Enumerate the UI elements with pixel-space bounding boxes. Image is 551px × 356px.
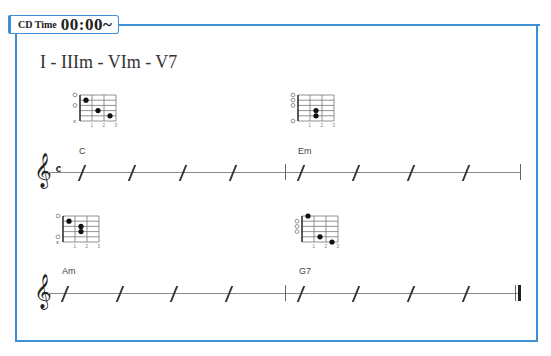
svg-text:x: x bbox=[56, 239, 59, 245]
treble-clef-icon: 𝄞 bbox=[34, 276, 52, 306]
svg-text:3: 3 bbox=[333, 123, 336, 128]
svg-text:x: x bbox=[73, 118, 76, 124]
chord-name-g7: G7 bbox=[299, 266, 311, 276]
svg-text:3: 3 bbox=[115, 123, 118, 128]
final-barline-thick bbox=[518, 285, 521, 301]
barline bbox=[285, 285, 286, 301]
svg-text:2: 2 bbox=[325, 244, 328, 249]
chord-name-c: C bbox=[79, 146, 86, 156]
treble-clef-icon: 𝄞 bbox=[34, 155, 52, 185]
svg-text:3: 3 bbox=[337, 244, 340, 249]
final-barline-thin bbox=[515, 285, 516, 301]
chord-diagram-am: x123 bbox=[53, 213, 105, 251]
cd-time-caption: CD Time bbox=[18, 19, 57, 30]
cd-time-value: 00:00~ bbox=[61, 15, 113, 35]
chord-diagram-g7: 123 bbox=[292, 213, 344, 251]
svg-text:1: 1 bbox=[313, 244, 316, 249]
svg-text:3: 3 bbox=[98, 244, 101, 249]
chord-diagram-em: 123 bbox=[288, 92, 340, 130]
svg-text:1: 1 bbox=[74, 244, 77, 249]
progression-title: I - IIIm - VIm - V7 bbox=[40, 52, 177, 73]
end-barline bbox=[520, 164, 521, 180]
cd-time-label: CD Time 00:00~ bbox=[8, 15, 119, 34]
svg-text:1: 1 bbox=[309, 123, 312, 128]
svg-text:1: 1 bbox=[91, 123, 94, 128]
section-frame-top bbox=[110, 24, 540, 26]
svg-text:2: 2 bbox=[321, 123, 324, 128]
chord-diagram-c: x123 bbox=[70, 92, 122, 130]
chord-name-am: Am bbox=[62, 266, 76, 276]
barline bbox=[285, 164, 286, 180]
svg-text:2: 2 bbox=[86, 244, 89, 249]
chord-name-em: Em bbox=[298, 146, 312, 156]
common-time-signature: 𝄴 bbox=[55, 161, 62, 179]
svg-text:2: 2 bbox=[103, 123, 106, 128]
